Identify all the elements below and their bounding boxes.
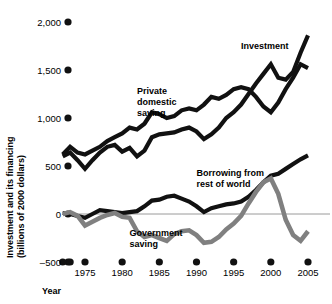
series-label-borrowing-from-rest-of-world: Borrowing from xyxy=(197,168,265,178)
x-tick-dot xyxy=(156,258,163,265)
y-tick-label: 2,000 xyxy=(37,17,61,28)
x-tick-label: 1995 xyxy=(223,267,244,278)
x-tick-dot xyxy=(119,258,126,265)
x-tick-label: 2000 xyxy=(260,267,281,278)
x-tick-dot xyxy=(304,258,311,265)
x-tick-label: 1975 xyxy=(74,267,95,278)
investment-financing-line-chart: 2,0001,5001,0005000–500 1975198019851990… xyxy=(0,0,332,304)
y-tick-label: 500 xyxy=(45,161,61,172)
y-axis-title-line2: (billions of 2000 dollars) xyxy=(16,155,26,258)
y-axis-title-line1: Investment and its financing xyxy=(5,136,15,258)
series-label-private-domestic-saving: domestic xyxy=(137,97,177,107)
chart-figure: 2,0001,5001,0005000–500 1975198019851990… xyxy=(0,0,332,304)
x-tick-label: 2005 xyxy=(297,267,318,278)
x-tick-dot xyxy=(193,258,200,265)
x-axis-title: Year xyxy=(42,286,62,296)
y-tick-dot xyxy=(64,18,71,25)
series-label-private-domestic-saving: Private xyxy=(137,86,167,96)
y-tick-dot xyxy=(64,114,71,121)
x-tick-dot xyxy=(81,258,88,265)
x-tick-dot xyxy=(267,258,274,265)
x-tick-label: 1980 xyxy=(112,267,133,278)
x-tick-label: 1990 xyxy=(186,267,207,278)
x-tick-dot xyxy=(67,258,74,265)
series-label-borrowing-from-rest-of-world: rest of world xyxy=(197,179,251,189)
x-tick-dot xyxy=(230,258,237,265)
series-label-investment: Investment xyxy=(241,41,289,51)
series-label-private-domestic-saving: saving xyxy=(137,108,166,118)
y-tick-label: 0 xyxy=(56,209,61,220)
y-tick-dot xyxy=(64,66,71,73)
y-tick-label: 1,000 xyxy=(37,113,61,124)
y-tick-label: –500 xyxy=(40,257,61,268)
y-tick-label: 1,500 xyxy=(37,65,61,76)
series-label-government-saving: Government xyxy=(130,228,183,238)
x-tick-label: 1985 xyxy=(149,267,170,278)
series-label-government-saving: saving xyxy=(130,239,159,249)
y-tick-dot xyxy=(64,162,71,169)
